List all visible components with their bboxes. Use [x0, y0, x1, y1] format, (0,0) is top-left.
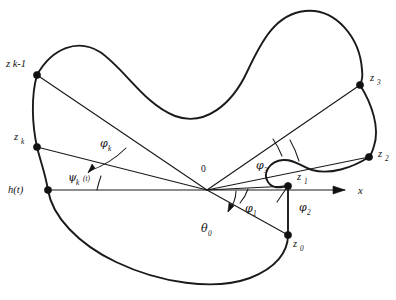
label-zk: z [13, 131, 18, 142]
label-origin: 0 [201, 163, 206, 174]
node-ht [44, 186, 51, 193]
label-psi-k-subscript: k [76, 178, 80, 187]
node-z1 [284, 182, 291, 189]
node-z3 [356, 81, 363, 88]
arc-phi-1 [240, 189, 248, 203]
label-zk-subscript: k [21, 137, 25, 146]
node-z2 [365, 153, 372, 160]
arc-phi-3-outer [290, 140, 299, 161]
label-phi-k-subscript: k [108, 144, 112, 153]
label-z0-subscript: 0 [300, 244, 304, 253]
label-phi-1-group: φ 1 [245, 202, 257, 218]
label-phi-2-subscript: 2 [307, 208, 311, 217]
arc-psi-k [97, 176, 101, 190]
label-z3-subscript: 3 [376, 78, 381, 87]
figure-canvas: z k-1 z k h(t) z 3 z 2 z 1 z 0 0 x ψ k (… [0, 0, 396, 300]
node-zk-minus-1 [33, 71, 40, 78]
label-x-axis: x [357, 185, 363, 196]
label-z1: z [296, 171, 301, 182]
contour-curve [33, 11, 376, 285]
label-z2-subscript: 2 [385, 154, 389, 163]
label-phi-2: φ [299, 201, 307, 214]
label-phi-k-group: φ k [100, 137, 112, 153]
label-theta-0-group: θ 0 [201, 222, 212, 238]
label-zk-minus-1: z k-1 [5, 58, 26, 69]
ray-to-zk [37, 147, 207, 190]
label-phi-2-group: φ 2 [299, 201, 311, 217]
label-z0: z [292, 238, 297, 249]
label-phi-3: φ [256, 159, 264, 172]
arc-phi-k-arrowhead-icon [88, 164, 95, 173]
label-phi-1: φ [245, 202, 253, 215]
ray-to-zk-minus-1 [37, 75, 207, 190]
node-z0 [284, 231, 291, 238]
label-psi-k-suffix: (t) [83, 174, 90, 183]
x-axis-arrow-icon [333, 186, 345, 194]
label-psi-k-group: ψ k (t) [68, 171, 90, 187]
label-theta-0-subscript: 0 [208, 229, 212, 238]
label-phi-k: φ [100, 137, 108, 150]
label-theta-0: θ [201, 222, 208, 235]
label-z1-subscript: 1 [304, 177, 308, 186]
label-phi-1-subscript: 1 [253, 209, 257, 218]
contour-diagram: z k-1 z k h(t) z 3 z 2 z 1 z 0 0 x ψ k (… [0, 0, 396, 300]
label-phi-3-subscript: 3 [263, 166, 268, 175]
node-zk [33, 143, 40, 150]
label-ht: h(t) [8, 184, 24, 196]
label-z2: z [377, 148, 382, 159]
label-phi-3-group: φ 3 [256, 159, 268, 175]
label-z3: z [369, 72, 374, 83]
